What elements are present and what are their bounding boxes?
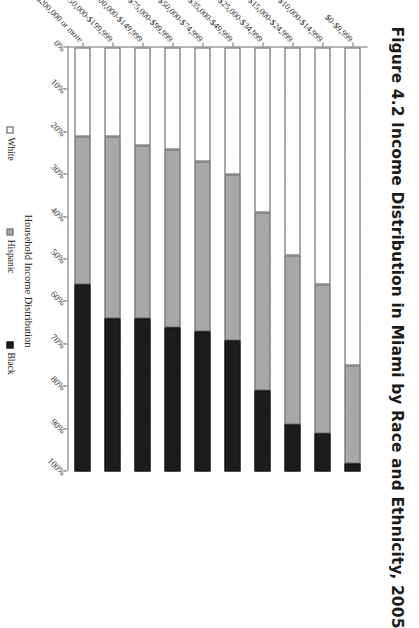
legend-item-label: Hispanic [5, 239, 15, 273]
value-axis-tick-label: 60% [42, 282, 67, 307]
bar-segment-white [164, 47, 181, 149]
bar-segment-white [134, 47, 151, 145]
bar-segment-hispanic [134, 145, 151, 319]
bar-segment-hispanic [194, 161, 211, 331]
chart-legend: WhiteHispanicBlack [5, 126, 15, 374]
category-axis-tick [82, 42, 83, 46]
stacked-bar [134, 47, 151, 471]
value-axis-tick-label: 30% [42, 155, 67, 180]
legend-item-label: White [5, 137, 15, 160]
category-axis-tick [112, 42, 113, 46]
stacked-bar [224, 47, 241, 471]
bar-segment-white [224, 47, 241, 174]
value-axis-tick-label: 20% [42, 112, 67, 137]
category-axis-tick [172, 42, 173, 46]
stacked-bar [74, 47, 91, 471]
bar-segment-black [224, 340, 241, 471]
value-axis-tick-label: 90% [42, 409, 67, 434]
category-axis-tick [232, 42, 233, 46]
legend-item-label: Black [5, 352, 15, 374]
stacked-bar [104, 47, 121, 471]
bar-segment-black [194, 331, 211, 471]
bar-segment-black [314, 433, 331, 471]
legend-item-hispanic: Hispanic [5, 228, 15, 273]
bar-segment-hispanic [224, 174, 241, 339]
category-axis-label: $0-$9,999 [323, 12, 355, 44]
legend-item-white: White [5, 126, 15, 160]
category-axis-tick [262, 42, 263, 46]
bar-segment-hispanic [284, 255, 301, 425]
category-axis-title: Household Income Distribution [22, 214, 33, 347]
bar-segment-hispanic [254, 212, 271, 390]
category-axis-tick [202, 42, 203, 46]
stacked-bar [164, 47, 181, 471]
bar-segment-black [344, 463, 361, 471]
bar-segment-white [284, 47, 301, 255]
category-axis-tick [322, 42, 323, 46]
value-axis-tick-label: 50% [42, 240, 67, 265]
bar-segment-white [254, 47, 271, 212]
bar-segment-white [104, 47, 121, 136]
bar-segment-white [74, 47, 91, 136]
category-axis-tick [292, 42, 293, 46]
bar-segment-black [74, 284, 91, 471]
bar-segment-black [164, 327, 181, 471]
value-axis-tick-label: 10% [42, 70, 67, 95]
value-axis-tick-label: 70% [42, 324, 67, 349]
bar-segment-black [104, 318, 121, 471]
value-axis-tick-label: 0% [42, 28, 67, 53]
stacked-bar [314, 47, 331, 471]
stacked-bar [344, 47, 361, 471]
bar-segment-hispanic [344, 365, 361, 463]
stacked-bar [254, 47, 271, 471]
bar-segment-white [194, 47, 211, 161]
bar-segment-black [284, 424, 301, 471]
chart-plot-area: 0%10%20%30%40%50%60%70%80%90%100% $0-$9,… [67, 46, 367, 470]
gray-square-swatch [7, 228, 14, 235]
bar-segment-hispanic [104, 136, 121, 318]
page-title: Figure 4.2 Income Distribution in Miami … [387, 26, 405, 628]
bar-segment-hispanic [74, 136, 91, 284]
black-square-swatch [7, 341, 14, 348]
value-axis-tick-label: 100% [42, 452, 67, 477]
bar-segment-hispanic [314, 284, 331, 432]
category-axis-tick [352, 42, 353, 46]
bar-segment-white [344, 47, 361, 365]
value-axis-tick-label: 40% [42, 197, 67, 222]
bar-segment-black [254, 390, 271, 471]
stacked-bar [284, 47, 301, 471]
bar-segment-white [314, 47, 331, 284]
bar-segment-black [134, 318, 151, 471]
open-square-swatch [7, 126, 14, 133]
legend-item-black: Black [5, 341, 15, 374]
bar-segment-hispanic [164, 149, 181, 327]
category-axis-tick [142, 42, 143, 46]
value-axis-tick-label: 80% [42, 367, 67, 392]
stacked-bar [194, 47, 211, 471]
